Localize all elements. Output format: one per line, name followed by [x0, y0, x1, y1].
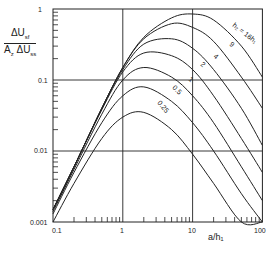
- x-tick-0.1: 0.1: [52, 227, 62, 234]
- x-tick-10: 10: [188, 227, 196, 234]
- chart-plot: 1 0.1 0.01 0.001 0.1 1 10 100 h₂ = 16h₁9…: [0, 0, 270, 254]
- curve-label: 0.5: [171, 84, 183, 96]
- curve-label: 1: [187, 75, 195, 83]
- y-tick-0.001: 0.001: [30, 219, 48, 226]
- x-tick-1: 1: [120, 227, 124, 234]
- curve-0.5: [53, 87, 262, 222]
- y-tick-1: 1: [38, 6, 42, 13]
- curve-9: [53, 23, 262, 209]
- curve-label: 9: [228, 40, 236, 48]
- x-tick-100: 100: [254, 227, 266, 234]
- plot-frame: [53, 9, 262, 222]
- curve-label: 0.25: [156, 99, 170, 114]
- curve-1: [53, 67, 262, 211]
- y-tick-0.01: 0.01: [34, 147, 48, 154]
- curve-4: [53, 39, 262, 210]
- curve-label: 2: [199, 60, 207, 68]
- curve-0.25: [53, 112, 262, 225]
- y-tick-0.1: 0.1: [38, 77, 48, 84]
- curve-label: 4: [212, 52, 220, 60]
- curve-2: [53, 52, 262, 210]
- curve-label: h₂ = 16h₁: [231, 21, 258, 45]
